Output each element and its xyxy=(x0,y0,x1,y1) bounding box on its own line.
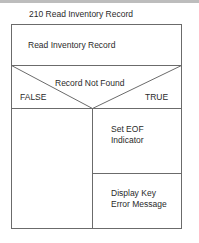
nassi-shneiderman-chart xyxy=(0,0,199,243)
true-step-2-line-1: Display Key xyxy=(111,188,156,199)
true-step-1-line-1: Set EOF xyxy=(111,124,144,135)
process-step-label: Read Inventory Record xyxy=(28,40,115,51)
true-label: TRUE xyxy=(145,92,168,103)
true-step-1-line-2: Indicator xyxy=(111,135,144,146)
true-step-2-line-2: Error Message xyxy=(111,199,167,210)
false-label: FALSE xyxy=(20,92,46,103)
outer-box xyxy=(12,25,182,229)
condition-label: Record Not Found xyxy=(55,78,124,89)
